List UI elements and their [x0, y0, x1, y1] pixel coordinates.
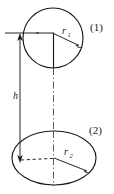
section-2-label: (2) [89, 124, 102, 137]
bottom-dashed-leader [21, 158, 53, 160]
diagram-canvas: (1) (2) h r 1 r 2 [0, 0, 114, 194]
radius-r2-label: r [64, 146, 68, 157]
radius-r1-line [54, 34, 80, 46]
technical-diagram-figure: (1) (2) h r 1 r 2 [0, 0, 114, 194]
radius-r1-label: r [62, 25, 66, 36]
radius-r1-subscript: 1 [68, 31, 71, 38]
radius-r2-line [54, 158, 87, 171]
height-label-h: h [13, 90, 18, 101]
radius-r2-subscript: 2 [70, 152, 74, 159]
section-1-label: (1) [90, 21, 103, 34]
